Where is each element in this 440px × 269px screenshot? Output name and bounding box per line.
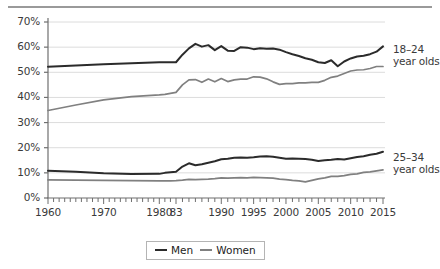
annotation-line-1: 25–34	[393, 152, 439, 164]
x-tick-label: 2010	[336, 206, 366, 218]
x-tick-label: 2005	[303, 206, 333, 218]
legend-item-men[interactable]: Men	[155, 244, 193, 256]
legend-label-women: Women	[216, 244, 256, 256]
x-tick-label: 2000	[271, 206, 301, 218]
series-line-1	[48, 67, 383, 111]
y-tick-label: 70%	[6, 15, 40, 27]
legend-swatch-women	[200, 249, 212, 252]
y-tick-label: 30%	[6, 116, 40, 128]
x-tick-label: 1960	[33, 206, 63, 218]
x-tick-label: 1990	[206, 206, 236, 218]
annotation-group-18-24: 18–24year olds	[393, 44, 439, 67]
annotation-line-1: 18–24	[393, 44, 439, 56]
y-tick-label: 60%	[6, 40, 40, 52]
x-tick-label: 1995	[239, 206, 269, 218]
y-tick-label: 40%	[6, 90, 40, 102]
chart-plot-area	[0, 0, 440, 269]
chart-legend: Men Women	[146, 241, 265, 260]
y-tick-label: 50%	[6, 65, 40, 77]
annotation-line-2: year olds	[393, 56, 439, 68]
legend-swatch-men	[155, 249, 167, 252]
legend-item-women[interactable]: Women	[200, 244, 256, 256]
y-tick-label: 10%	[6, 166, 40, 178]
chart-figure: 0%10%20%30%40%50%60%70% 1960197019808319…	[0, 0, 440, 269]
series-line-3	[48, 170, 383, 182]
y-tick-label: 0%	[6, 191, 40, 203]
annotation-line-2: year olds	[393, 164, 439, 176]
legend-label-men: Men	[171, 244, 193, 256]
x-tick-label: 1970	[89, 206, 119, 218]
series-line-2	[48, 152, 383, 174]
x-tick-label: 83	[161, 206, 191, 218]
annotation-group-25-34: 25–34year olds	[393, 152, 439, 175]
y-tick-label: 20%	[6, 141, 40, 153]
x-tick-label: 2015	[368, 206, 398, 218]
